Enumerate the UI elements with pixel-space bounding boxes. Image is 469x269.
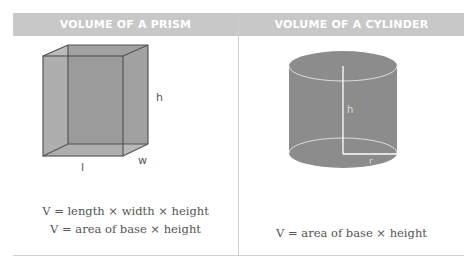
cylinder-header: VOLUME OF A CYLINDER [239,13,464,36]
prism-height-label: h [156,91,163,104]
prism-diagram: h l w [13,36,238,186]
prism-formula-1: V = length × width × height [13,203,238,220]
prism-length-label: l [81,161,84,174]
cylinder-height-label: h [347,104,353,115]
prism-formula-2: V = area of base × height [13,221,238,238]
cylinder-formula: V = area of base × height [239,225,464,242]
cylinder-diagram: h r [239,36,464,196]
cylinder-column: VOLUME OF A CYLINDER h r V = area of bas… [239,13,464,255]
cylinder-radius-label: r [369,156,373,166]
volume-formulas-table: VOLUME OF A PRISM h l w [13,13,464,256]
prism-header: VOLUME OF A PRISM [13,13,238,36]
prism-width-label: w [138,154,147,167]
prism-column: VOLUME OF A PRISM h l w [13,13,238,255]
